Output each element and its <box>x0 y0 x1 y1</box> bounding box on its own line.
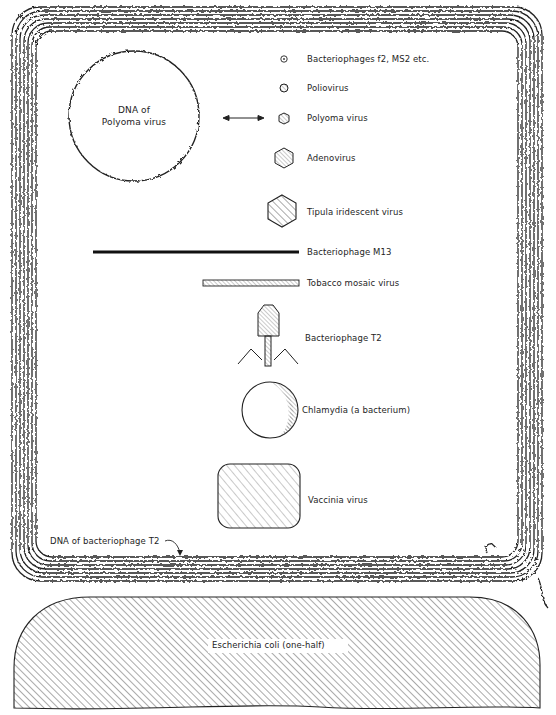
rod-icon <box>203 280 299 286</box>
hexagon-icon <box>275 148 293 168</box>
label-t2: Bacteriophage T2 <box>305 333 382 343</box>
polyoma-dna-label-line1: DNA of <box>84 104 184 116</box>
label-tmv: Tobacco mosaic virus <box>307 278 399 288</box>
label-t2-dna: DNA of bacteriophage T2 <box>50 536 159 546</box>
label-tipula: Tipula iridescent virus <box>307 207 403 217</box>
label-poliovirus: Poliovirus <box>307 83 349 93</box>
label-f2: Bacteriophages f2, MS2 etc. <box>307 54 429 64</box>
label-chlamydia: Chlamydia (a bacterium) <box>302 405 410 415</box>
label-adenovirus: Adenovirus <box>307 153 356 163</box>
small-circle-icon <box>281 56 287 62</box>
brick-icon <box>218 464 300 528</box>
label-polyoma: Polyoma virus <box>307 113 368 123</box>
polyoma-dna-label-line2: Polyoma virus <box>84 116 184 128</box>
double-arrow-icon <box>223 116 264 121</box>
label-m13: Bacteriophage M13 <box>307 247 392 257</box>
large-hexagon-icon <box>268 195 296 227</box>
phage-icon <box>238 305 298 366</box>
polyoma-dna-label: DNA of Polyoma virus <box>84 104 184 128</box>
label-ecoli: Escherichia coli (one-half) <box>212 640 325 650</box>
small-polyhedron-icon <box>280 84 288 92</box>
label-vaccinia: Vaccinia virus <box>308 495 368 505</box>
polyhedron-icon <box>279 113 289 124</box>
sphere-icon <box>242 382 299 438</box>
